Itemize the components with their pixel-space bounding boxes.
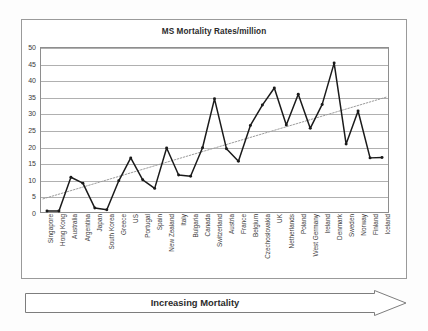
data-point bbox=[129, 156, 132, 159]
x-axis-tick-label: Poland bbox=[301, 214, 307, 234]
x-axis-tick-label: Sweden bbox=[349, 214, 355, 237]
y-axis-tick-label: 5 bbox=[32, 193, 36, 200]
data-point bbox=[309, 127, 312, 130]
trendline-path bbox=[43, 97, 386, 199]
x-axis-tick-label: South Korea bbox=[109, 214, 115, 250]
series-svg bbox=[41, 48, 388, 212]
y-axis-tick-label: 45 bbox=[28, 60, 36, 67]
data-point bbox=[249, 124, 252, 127]
chart-title: MS Mortality Rates/million bbox=[22, 27, 406, 36]
x-axis-tick-label: Hong Kong bbox=[60, 214, 66, 246]
y-axis-tick-label: 30 bbox=[28, 110, 36, 117]
y-axis-tick-label: 40 bbox=[28, 77, 36, 84]
data-point bbox=[321, 103, 324, 106]
y-axis-tick-label: 15 bbox=[28, 160, 36, 167]
x-axis-tick-label: UK bbox=[277, 214, 283, 223]
x-axis-tick-labels: SingaporeHong KongAustraliaArgentinaJapa… bbox=[40, 214, 389, 276]
data-point bbox=[141, 178, 144, 181]
data-point bbox=[357, 109, 360, 112]
data-point bbox=[105, 208, 108, 211]
data-point bbox=[201, 146, 204, 149]
data-point bbox=[213, 97, 216, 100]
x-axis-tick-label: Japan bbox=[97, 214, 103, 231]
x-axis-tick-label: Ireland bbox=[325, 214, 331, 234]
y-axis-tick-label: 35 bbox=[28, 93, 36, 100]
x-axis-tick-label: Belgium bbox=[253, 214, 259, 237]
x-axis-tick-label: Australia bbox=[72, 214, 78, 239]
y-axis-tick-label: 50 bbox=[28, 44, 36, 51]
data-point bbox=[189, 175, 192, 178]
data-point bbox=[381, 156, 384, 159]
y-axis-tick-label: 20 bbox=[28, 143, 36, 150]
data-point bbox=[285, 124, 288, 127]
x-axis-tick-label: Argentina bbox=[85, 214, 91, 241]
increasing-mortality-banner: Increasing Mortality bbox=[25, 290, 407, 316]
x-axis-tick-label: Finland bbox=[373, 214, 379, 235]
data-point bbox=[369, 156, 372, 159]
x-axis-tick-label: Iceland bbox=[385, 214, 391, 235]
data-point bbox=[153, 187, 156, 190]
data-point bbox=[297, 93, 300, 96]
plot-area bbox=[40, 47, 389, 213]
x-axis-tick-label: Bulgaria bbox=[193, 214, 199, 237]
x-axis-tick-label: Canada bbox=[205, 214, 211, 236]
x-axis-tick-label: Portugal bbox=[145, 214, 151, 238]
data-point bbox=[177, 173, 180, 176]
x-axis-tick-label: Greece bbox=[121, 214, 127, 235]
y-axis-tick-label: 25 bbox=[28, 127, 36, 134]
data-point bbox=[81, 182, 84, 185]
y-axis-tick-label: 10 bbox=[28, 176, 36, 183]
data-point bbox=[45, 210, 48, 213]
x-axis-tick-label: Italy bbox=[181, 214, 187, 226]
data-point bbox=[57, 210, 60, 213]
chart-screenshot: MS Mortality Rates/million 0510152025303… bbox=[0, 0, 428, 331]
data-point bbox=[345, 143, 348, 146]
x-axis-tick-label: US bbox=[133, 214, 139, 223]
data-point bbox=[273, 87, 276, 90]
data-point bbox=[117, 179, 120, 182]
data-point bbox=[69, 176, 72, 179]
x-axis-tick-label: Spain bbox=[157, 214, 163, 230]
data-point bbox=[333, 62, 336, 65]
x-axis-tick-label: West Germany bbox=[313, 214, 319, 257]
data-point bbox=[237, 160, 240, 163]
banner-label: Increasing Mortality bbox=[25, 290, 365, 316]
x-axis-tick-label: Austria bbox=[229, 214, 235, 234]
series-data-points bbox=[45, 62, 383, 213]
chart-frame: MS Mortality Rates/million 0510152025303… bbox=[21, 19, 407, 279]
data-point bbox=[225, 147, 228, 150]
series-line-path bbox=[47, 63, 382, 211]
x-axis-tick-label: Netherlands bbox=[289, 214, 295, 248]
x-axis-tick-label: Singapore bbox=[48, 214, 54, 243]
data-point bbox=[165, 147, 168, 150]
data-point bbox=[261, 104, 264, 107]
x-axis-tick-label: Switzerland bbox=[217, 214, 223, 247]
data-point bbox=[93, 207, 96, 210]
x-axis-tick-label: New Zealand bbox=[169, 214, 175, 252]
y-axis-tick-label: 0 bbox=[32, 210, 36, 217]
x-axis-tick-label: Czechoslovakia bbox=[265, 214, 271, 259]
x-axis-tick-label: France bbox=[241, 214, 247, 234]
x-axis-tick-label: Norway bbox=[361, 214, 367, 236]
x-axis-tick-label: Denmark bbox=[337, 214, 343, 240]
